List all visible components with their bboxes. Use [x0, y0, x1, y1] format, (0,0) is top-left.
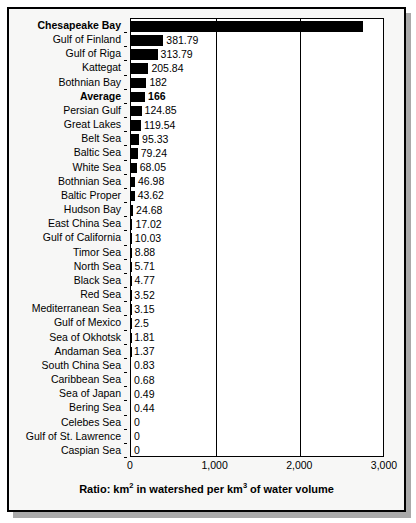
bar-row: 0.83: [131, 359, 383, 374]
bar: [131, 134, 139, 145]
bar: [131, 35, 163, 46]
bar-value-label: 24.68: [136, 203, 162, 218]
category-label: Black Sea: [74, 273, 121, 288]
y-axis-tick: [124, 75, 127, 76]
y-axis-tick: [124, 230, 127, 231]
y-axis-tick: [124, 174, 127, 175]
x-tick-label: 2,000: [286, 459, 312, 471]
category-label: Average: [80, 89, 121, 104]
bar-value-label: 1.81: [134, 330, 154, 345]
x-axis-tick-labels: 01,0002,0003,000: [130, 459, 384, 475]
bar-value-label: 5.71: [134, 259, 154, 274]
caption-suffix: of water volume: [247, 483, 334, 495]
bar-row: 68.05: [131, 161, 383, 176]
bar-rows: 2,742.86381.79313.79205.84182166124.8511…: [131, 19, 383, 456]
bar: [131, 49, 158, 60]
category-label: Belt Sea: [81, 131, 121, 146]
chart-figure: Chesapeake BayGulf of FinlandGulf of Rig…: [0, 0, 416, 523]
bar-value-label: 10.03: [135, 231, 161, 246]
bar: [131, 205, 133, 216]
bar-row: 182: [131, 76, 383, 91]
bar: [131, 219, 132, 230]
bar-row: 4.77: [131, 274, 383, 289]
bar-value-label: 182: [149, 75, 167, 90]
x-tick-label: 1,000: [202, 459, 228, 471]
bar-value-label: 1.37: [134, 344, 154, 359]
bar-value-label: 313.79: [161, 47, 193, 62]
category-label: South China Sea: [42, 358, 121, 373]
x-axis-caption: Ratio: km2 in watershed per km3 of water…: [9, 481, 404, 495]
category-label: Kattegat: [82, 60, 121, 75]
bar-row: 0.49: [131, 387, 383, 402]
category-label: Baltic Sea: [74, 145, 121, 160]
bar-value-label: 381.79: [166, 33, 198, 48]
bar-value-label: 0: [134, 429, 140, 444]
bar-value-label: 3.15: [134, 302, 154, 317]
y-axis-tick: [124, 46, 127, 47]
y-axis-tick: [124, 216, 127, 217]
chart-panel: Chesapeake BayGulf of FinlandGulf of Rig…: [7, 7, 406, 512]
y-axis-tick: [124, 259, 127, 260]
bar: [131, 78, 146, 89]
y-axis-tick: [124, 315, 127, 316]
category-label: Baltic Proper: [61, 188, 121, 203]
category-label: Caspian Sea: [61, 443, 121, 458]
category-label: East China Sea: [48, 216, 121, 231]
bar-value-label: 3.52: [134, 288, 154, 303]
bar-row: 0: [131, 430, 383, 445]
category-label: Bothnian Bay: [59, 75, 121, 90]
bar-value-label: 68.05: [140, 160, 166, 175]
category-label: Persian Gulf: [63, 103, 121, 118]
bar: [131, 248, 132, 259]
y-axis-tick: [124, 429, 127, 430]
y-axis-tick: [124, 358, 127, 359]
bar-value-label: 119.54: [144, 118, 175, 133]
x-tick-label: 3,000: [371, 459, 397, 471]
category-label: White Sea: [73, 160, 121, 175]
bar-row: 8.88: [131, 246, 383, 261]
category-axis-labels: Chesapeake BayGulf of FinlandGulf of Rig…: [9, 18, 127, 457]
bar-row: 17.02: [131, 217, 383, 232]
bar-row: 1.81: [131, 331, 383, 346]
bar-value-label: 17.02: [135, 217, 161, 232]
y-axis-tick: [124, 32, 127, 33]
bar-value-label: 0: [134, 415, 140, 430]
bar: [131, 106, 142, 117]
bar: [131, 233, 132, 244]
y-axis-tick: [124, 117, 127, 118]
bar: [131, 148, 138, 159]
bar: [131, 177, 135, 188]
y-axis-tick: [124, 160, 127, 161]
bar-row: 46.98: [131, 175, 383, 190]
category-label: Sea of Okhotsk: [49, 330, 121, 345]
category-label: Great Lakes: [64, 117, 121, 132]
bar: [131, 120, 141, 131]
category-label: Gulf of California: [43, 230, 121, 245]
y-axis-tick: [124, 344, 127, 345]
bar-value-label: 95.33: [142, 132, 168, 147]
bar-value-label: 124.85: [145, 103, 177, 118]
category-label: Chesapeake Bay: [38, 18, 121, 33]
bar-value-label: 2.5: [134, 316, 149, 331]
caption-middle: in watershed per km: [133, 483, 242, 495]
category-label: Gulf of Mexico: [54, 315, 121, 330]
y-axis-tick: [124, 188, 127, 189]
y-axis-tick: [124, 372, 127, 373]
bar-row: 3.52: [131, 288, 383, 303]
bar-row: 0.44: [131, 401, 383, 416]
bar: [131, 63, 148, 74]
y-axis-tick: [124, 89, 127, 90]
bar-row: 79.24: [131, 146, 383, 161]
y-axis-tick: [124, 131, 127, 132]
category-label: Andaman Sea: [54, 344, 121, 359]
bar-value-label: 8.88: [135, 245, 155, 260]
category-label: Gulf of Riga: [66, 46, 121, 61]
bar-row: 0: [131, 416, 383, 431]
bar-row: 10.03: [131, 231, 383, 246]
bar-row: 24.68: [131, 203, 383, 218]
plot-area: 2,742.86381.79313.79205.84182166124.8511…: [130, 18, 384, 457]
bar-value-label: 0.44: [134, 401, 154, 416]
y-axis-tick: [124, 273, 127, 274]
bar-row: 1.37: [131, 345, 383, 360]
bar-value-label: 0.68: [134, 373, 154, 388]
